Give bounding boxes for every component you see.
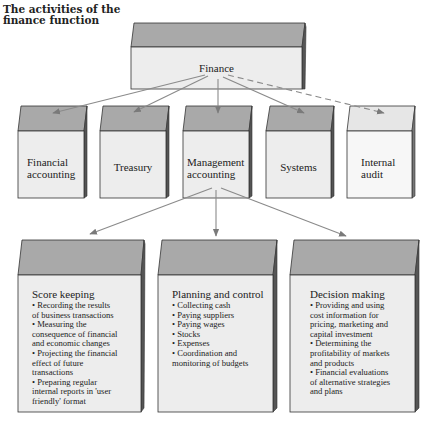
treasury-label: Treasury: [100, 161, 166, 173]
management-accounting-box: [183, 106, 252, 198]
label-line-1: Systems: [266, 161, 331, 173]
label-line-2: accounting: [187, 168, 244, 180]
label-line-2: audit: [361, 168, 395, 180]
label-line-1: Internal: [361, 156, 395, 168]
internal-audit-box: [347, 106, 415, 198]
decision-making-text: Decision making • Providing and using co…: [310, 288, 414, 397]
internal-audit-label: Internal audit: [361, 156, 395, 180]
finance-label: Finance: [131, 62, 302, 74]
systems-box: [266, 106, 334, 198]
list-item: friendly' format: [32, 397, 140, 407]
list-item: monitoring of budgets: [172, 359, 272, 369]
treasury-box: [100, 106, 169, 198]
label-line-2: accounting: [27, 168, 75, 180]
score-keeping-text: Score keeping • Recording the results of…: [32, 288, 140, 407]
systems-label: Systems: [266, 161, 331, 173]
label-line-1: Financial: [27, 156, 75, 168]
management-accounting-label: Management accounting: [187, 156, 244, 180]
label-line-1: Management: [187, 156, 244, 168]
list-item: and plans: [310, 387, 414, 397]
planning-and-control-text: Planning and control • Collecting cash •…: [172, 288, 272, 368]
label-line-1: Treasury: [100, 161, 166, 173]
financial-accounting-box: [18, 106, 87, 198]
financial-accounting-label: Financial accounting: [27, 156, 75, 180]
